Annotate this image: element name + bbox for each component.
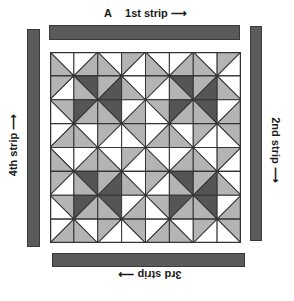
arrow-right-icon: ⟶: [171, 7, 187, 19]
fourth-strip-text: 4th strip: [7, 133, 19, 176]
first-strip-text: 1st strip: [125, 7, 168, 19]
third-strip-text: 3rd strip: [138, 269, 182, 281]
third-strip-label: 3rd strip ⟶: [118, 269, 181, 281]
arrow-icon: ⟶: [118, 269, 134, 281]
arrow-icon: ⟶: [7, 114, 19, 130]
first-strip-label: A 1st strip ⟶: [104, 7, 187, 19]
second-strip-label: 2nd strip ⟶: [270, 117, 282, 183]
strip-top: [49, 25, 240, 40]
fourth-strip-label: 4th strip ⟶: [7, 114, 19, 176]
strip-left: [27, 29, 40, 247]
second-strip-text: 2nd strip: [270, 117, 282, 163]
arrow-icon: ⟶: [270, 167, 282, 183]
figure-letter: A: [104, 7, 112, 19]
strip-bottom: [52, 253, 245, 267]
quilt-grid: [50, 52, 241, 243]
strip-right: [250, 26, 262, 241]
